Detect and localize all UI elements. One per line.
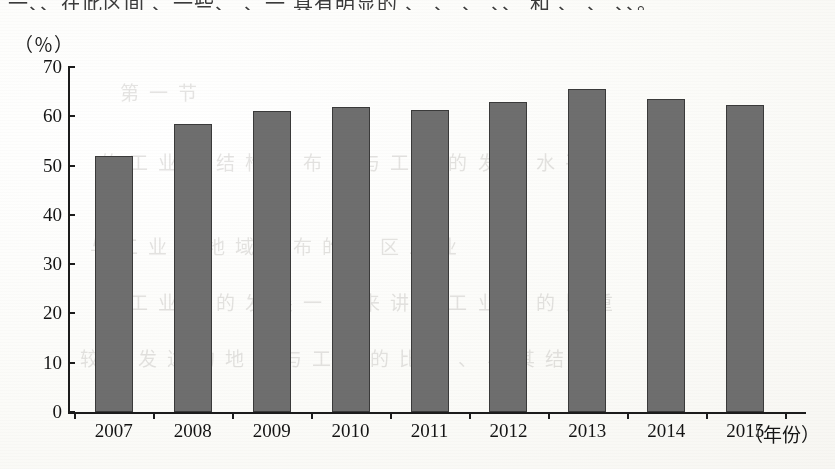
y-tick-label: 50	[22, 156, 62, 175]
x-tick-label: 2010	[306, 420, 396, 442]
scanned-page: 一、、在此区间 、一些、 、一 具有明显的 、 、 、 、、 和 、 、 、、。…	[0, 0, 835, 469]
x-tick-label: 2014	[621, 420, 711, 442]
bar	[174, 124, 212, 412]
y-tick-label-wrap: 60	[0, 106, 62, 107]
bar	[95, 156, 133, 412]
x-tick-mark	[74, 412, 76, 419]
x-tick-label: 2013	[542, 420, 632, 442]
y-tick-label-wrap: 10	[0, 353, 62, 354]
y-tick-label: 30	[22, 254, 62, 273]
x-tick-mark	[548, 412, 550, 419]
y-tick-label: 0	[22, 402, 62, 421]
y-tick-label: 40	[22, 205, 62, 224]
x-axis-name-label: （年份）	[744, 420, 820, 447]
x-tick-label: 2007	[69, 420, 159, 442]
x-tick-mark	[390, 412, 392, 419]
y-tick-label: 10	[22, 353, 62, 372]
bar	[253, 111, 291, 412]
x-tick-mark	[153, 412, 155, 419]
y-tick-label-wrap: 0	[0, 402, 62, 403]
y-tick-mark	[68, 263, 75, 265]
y-tick-label: 60	[22, 106, 62, 125]
y-tick-label: 20	[22, 303, 62, 322]
x-tick-mark	[311, 412, 313, 419]
y-tick-label-wrap: 20	[0, 303, 62, 304]
x-tick-mark	[706, 412, 708, 419]
y-tick-label-wrap: 50	[0, 156, 62, 157]
x-tick-mark	[469, 412, 471, 419]
y-tick-mark	[68, 115, 75, 117]
x-tick-label: 2011	[385, 420, 475, 442]
x-tick-label: 2008	[148, 420, 238, 442]
x-tick-mark	[785, 412, 787, 419]
bar	[568, 89, 606, 412]
y-tick-label-wrap: 40	[0, 205, 62, 206]
y-tick-label: 70	[22, 57, 62, 76]
x-tick-mark	[627, 412, 629, 419]
x-tick-label: 2009	[227, 420, 317, 442]
y-tick-mark	[68, 312, 75, 314]
bar	[332, 107, 370, 412]
bar	[489, 102, 527, 413]
y-tick-mark	[68, 66, 75, 68]
y-tick-mark	[68, 362, 75, 364]
x-tick-label: 2012	[463, 420, 553, 442]
bar	[411, 110, 449, 412]
bar	[726, 105, 764, 412]
y-tick-label-wrap: 70	[0, 57, 62, 58]
bar-chart: （％） 010203040506070 20072008200920102011…	[0, 0, 835, 469]
bar	[647, 99, 685, 412]
y-tick-mark	[68, 165, 75, 167]
y-axis-unit-label: （％）	[14, 30, 74, 57]
x-axis-line	[68, 412, 806, 414]
x-tick-mark	[232, 412, 234, 419]
y-tick-label-wrap: 30	[0, 254, 62, 255]
y-tick-mark	[68, 214, 75, 216]
